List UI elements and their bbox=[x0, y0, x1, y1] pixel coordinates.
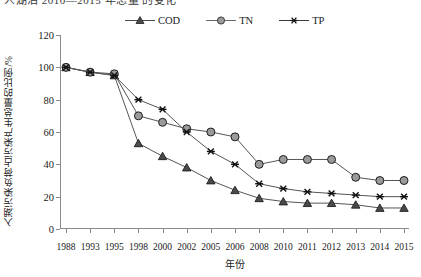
data-point-triangle bbox=[255, 194, 263, 201]
plot-area: 1988199319951998200020022005200620082010… bbox=[60, 8, 410, 237]
legend-marker-asterisk-icon bbox=[279, 15, 309, 26]
data-point-asterisk bbox=[303, 189, 311, 195]
y-tick-label: 60 bbox=[28, 127, 54, 138]
y-tick-label: 80 bbox=[28, 94, 54, 105]
legend-marker-triangle-icon bbox=[125, 15, 155, 26]
x-tick-label: 2006 bbox=[226, 242, 245, 252]
data-point-asterisk bbox=[134, 97, 142, 103]
data-point-circle bbox=[207, 128, 215, 136]
x-tick-label: 2005 bbox=[201, 242, 220, 252]
data-point-triangle bbox=[231, 186, 239, 193]
line-chart: 入湖污染负荷占污染产生总量的比例/% 020406080100120 19881… bbox=[0, 8, 421, 277]
data-point-circle bbox=[159, 118, 167, 126]
x-tick-label: 2000 bbox=[153, 242, 172, 252]
chart-legend: COD TN TP bbox=[125, 12, 365, 28]
data-point-circle bbox=[352, 173, 360, 181]
x-tick-label: 1998 bbox=[129, 242, 148, 252]
series-tn bbox=[62, 63, 408, 184]
data-point-circle bbox=[134, 112, 142, 120]
x-tick-label: 1995 bbox=[105, 242, 124, 252]
x-tick-label: 2014 bbox=[370, 242, 389, 252]
data-point-asterisk bbox=[328, 191, 336, 197]
x-tick-label: 1993 bbox=[81, 242, 100, 252]
legend-item-tp[interactable]: TP bbox=[279, 15, 324, 26]
legend-label-tp: TP bbox=[312, 15, 324, 26]
x-tick-label: 2013 bbox=[346, 242, 365, 252]
data-point-circle bbox=[231, 133, 239, 141]
x-tick-label: 2015 bbox=[395, 242, 414, 252]
x-tick-label: 2010 bbox=[274, 242, 293, 252]
legend-item-tn[interactable]: TN bbox=[206, 15, 253, 26]
data-point-asterisk bbox=[352, 192, 360, 198]
data-point-asterisk bbox=[279, 186, 287, 192]
y-axis-title-text: 入湖污染负荷占污染产生总量的比例/% bbox=[5, 56, 15, 227]
y-tick-label: 40 bbox=[28, 159, 54, 170]
data-point-circle bbox=[303, 155, 311, 163]
y-tick-label: 0 bbox=[28, 224, 54, 235]
data-point-circle bbox=[400, 177, 408, 185]
data-point-circle bbox=[255, 160, 263, 168]
legend-marker-circle-icon bbox=[206, 15, 236, 26]
legend-item-cod[interactable]: COD bbox=[125, 15, 180, 26]
data-point-circle bbox=[328, 155, 336, 163]
data-point-asterisk bbox=[255, 181, 263, 187]
data-point-triangle bbox=[158, 152, 166, 159]
y-tick-label: 100 bbox=[28, 62, 54, 73]
x-tick-label: 1988 bbox=[57, 242, 76, 252]
data-point-triangle bbox=[134, 139, 142, 146]
y-tick-label: 120 bbox=[28, 30, 54, 41]
x-tick-label: 2012 bbox=[322, 242, 341, 252]
x-axis-title: 年份 bbox=[60, 256, 410, 271]
y-axis-title: 入湖污染负荷占污染产生总量的比例/% bbox=[2, 46, 18, 236]
data-point-asterisk bbox=[400, 194, 408, 200]
x-tick-label: 2011 bbox=[298, 242, 317, 252]
y-axis-tick-labels: 020406080100120 bbox=[28, 8, 54, 238]
legend-label-cod: COD bbox=[158, 15, 180, 26]
data-point-triangle bbox=[183, 164, 191, 171]
x-tick-label: 2008 bbox=[250, 242, 269, 252]
data-point-asterisk bbox=[231, 161, 239, 167]
data-point-circle bbox=[279, 155, 287, 163]
cropped-caption-text: 人湖泊 2010—2015 年总量 的变化 bbox=[4, 0, 177, 7]
series-canvas bbox=[60, 8, 410, 237]
x-tick-label: 2002 bbox=[177, 242, 196, 252]
data-point-asterisk bbox=[376, 194, 384, 200]
data-point-circle bbox=[376, 177, 384, 185]
data-point-asterisk bbox=[159, 106, 167, 112]
legend-label-tn: TN bbox=[239, 15, 253, 26]
data-point-circle bbox=[110, 70, 118, 78]
data-point-triangle bbox=[207, 177, 215, 184]
chart-page: 人湖泊 2010—2015 年总量 的变化 入湖污染负荷占污染产生总量的比例/%… bbox=[0, 0, 421, 277]
y-tick-label: 20 bbox=[28, 191, 54, 202]
data-point-asterisk bbox=[207, 149, 215, 155]
